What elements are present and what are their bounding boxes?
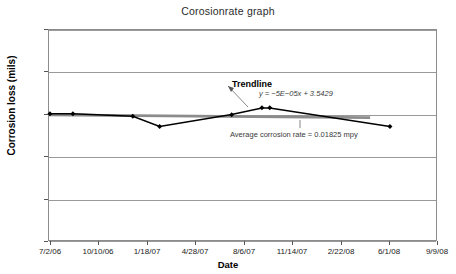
average-rate-note: Average corrosion rate = 0.01825 mpy — [230, 130, 358, 139]
trendline-label: Trendline — [232, 79, 272, 89]
trendline-equation: y = −5E−05x + 3.5429 — [259, 89, 333, 98]
data-point-marker — [387, 124, 392, 129]
chart-overlay — [0, 0, 456, 274]
data-point-marker — [157, 124, 162, 129]
data-point-marker — [267, 105, 272, 110]
corrosion-rate-chart: Corosionrate graph Corrosion loss (mils)… — [0, 0, 456, 274]
data-point-marker — [259, 105, 264, 110]
